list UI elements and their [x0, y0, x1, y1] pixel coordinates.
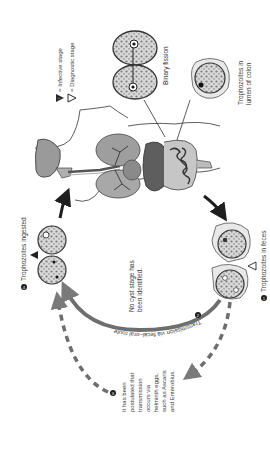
binary-fission-cell — [113, 31, 157, 99]
legend: i = Infective stage = Diagnostic stage — [56, 42, 77, 102]
legend-diagnostic-label: = Diagnostic stage — [69, 42, 75, 92]
no-cyst-line2: been identified. — [136, 268, 143, 312]
lumen-trophozoite-cell — [192, 59, 230, 99]
step-2-badge: 2 — [195, 312, 201, 318]
infective-stage-icon — [30, 251, 38, 259]
postulated-line-1: It has been — [121, 382, 127, 412]
feces-trophozoites — [212, 223, 256, 299]
postulated-line-4: occurs via — [145, 384, 151, 412]
step-1-badge: 1 — [261, 295, 267, 301]
ingested-trophozoites — [30, 226, 66, 284]
postulated-line-6: such as Ascaris — [161, 370, 167, 412]
postulated-line-3: transmission — [137, 378, 143, 412]
lumen-label-line2: lumen of colon — [245, 62, 252, 105]
human-body-illustration — [35, 106, 220, 201]
ingestion-arrow — [60, 196, 66, 218]
step-4-badge: 4 — [21, 284, 27, 290]
binary-fission-label: Binary fission — [162, 46, 170, 85]
lumen-label-line1: Trophozoites in — [237, 60, 245, 105]
postulated-line-7: and Enterobius. — [169, 370, 175, 412]
life-cycle-diagram: i = Infective stage = Diagnostic stage B… — [0, 0, 270, 450]
svg-text:i: i — [56, 97, 61, 98]
feces-label: Trophozoites in feces — [260, 230, 268, 292]
step-3-badge: 3 — [110, 390, 116, 396]
legend-infective-label: = Infective stage — [57, 47, 63, 92]
excretion-arrow — [204, 196, 222, 214]
no-cyst-line1: No cyst stage has — [128, 260, 136, 312]
ingested-label: Trophozoites ingested — [20, 217, 28, 281]
postulated-line-5: helminth eggs, — [153, 373, 159, 412]
pointer-line — [144, 100, 165, 137]
infective-stage-icon: i — [56, 94, 65, 102]
postulated-line-2: postulated that — [129, 372, 135, 412]
diagnostic-stage-icon — [248, 262, 256, 270]
pointer-line — [177, 100, 190, 140]
diagnostic-stage-icon — [68, 94, 76, 102]
